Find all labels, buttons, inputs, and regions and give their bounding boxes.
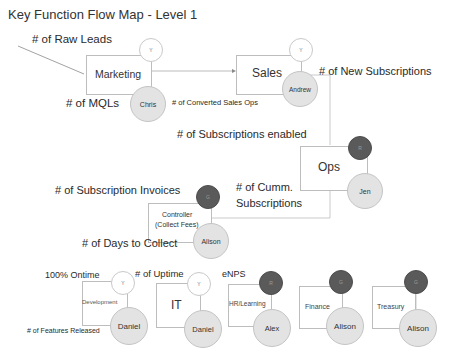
hr-owner-avatar: Alex	[253, 309, 291, 347]
marketing-owner-avatar: Chris	[130, 86, 166, 122]
it-label: IT	[171, 298, 182, 312]
it-owner-name: Daniel	[192, 325, 213, 334]
ops-owner-name: Jen	[359, 188, 370, 195]
metric-subscriptions-enabled: # of Subscriptions enabled	[177, 128, 307, 140]
hr-owner-name: Alex	[265, 324, 280, 333]
development-label: Development	[82, 299, 117, 305]
sales-status-text: Y	[299, 47, 302, 53]
finance-label: Finance	[305, 303, 330, 310]
treasury-status-text: G	[414, 279, 418, 285]
development-owner-name: Daniel	[118, 322, 141, 331]
metric-ontime: 100% Ontime	[45, 270, 100, 280]
controller-owner-avatar: Alison	[193, 223, 229, 259]
ops-status-text: R	[358, 145, 362, 151]
marketing-status-text: Y	[149, 47, 152, 53]
metric-uptime: # of Uptime	[135, 268, 184, 279]
treasury-owner-avatar: Alison	[399, 309, 437, 347]
metric-enps: eNPS	[222, 269, 246, 279]
controller-status-text: G	[206, 194, 210, 200]
metric-features-released: # of Features Released	[27, 327, 100, 334]
development-status-text: Y	[121, 280, 124, 286]
metric-raw-leads: # of Raw Leads	[32, 33, 112, 45]
metric-days-to-collect: # of Days to Collect	[82, 237, 177, 249]
treasury-owner-name: Alison	[407, 324, 429, 333]
metric-cumm-subscriptions-line2: Subscriptions	[236, 197, 302, 209]
hr-status-icon: R	[259, 271, 283, 295]
metric-new-subscriptions: # of New Subscriptions	[319, 65, 432, 77]
ops-owner-avatar: Jen	[347, 173, 383, 209]
treasury-label: Treasury	[377, 303, 404, 310]
marketing-label: Marketing	[95, 68, 141, 80]
it-status-icon: Y	[187, 272, 211, 296]
finance-status-icon: G	[329, 270, 353, 294]
hr-label: HR/Learning	[229, 300, 266, 307]
controller-label-line1: Controller	[162, 211, 192, 218]
marketing-status-icon: Y	[139, 38, 163, 62]
controller-owner-name: Alison	[201, 238, 220, 245]
controller-status-icon: G	[196, 185, 220, 209]
marketing-owner-name: Chris	[140, 101, 156, 108]
controller-label-line2: (Collect Fees)	[155, 221, 199, 228]
finance-owner-name: Alison	[334, 322, 356, 331]
ops-status-icon: R	[348, 136, 372, 160]
sales-status-icon: Y	[289, 38, 313, 62]
finance-owner-avatar: Alison	[326, 307, 364, 345]
sales-label: Sales	[252, 66, 282, 80]
finance-status-text: G	[339, 279, 343, 285]
it-owner-avatar: Daniel	[184, 310, 222, 348]
metric-cumm-subscriptions-line1: # of Cumm.	[236, 181, 293, 193]
hr-status-text: R	[269, 280, 273, 286]
metric-subscription-invoices: # of Subscription Invoices	[55, 184, 180, 196]
development-owner-avatar: Daniel	[110, 307, 148, 345]
treasury-status-icon: G	[404, 270, 428, 294]
ops-label: Ops	[318, 160, 340, 174]
it-status-text: Y	[197, 281, 200, 287]
sales-owner-avatar: Andrew	[282, 71, 318, 107]
development-status-icon: Y	[111, 271, 135, 295]
metric-converted-sales-ops: # of Converted Sales Ops	[172, 98, 258, 107]
metric-mqls: # of MQLs	[66, 97, 119, 109]
sales-owner-name: Andrew	[289, 86, 311, 93]
